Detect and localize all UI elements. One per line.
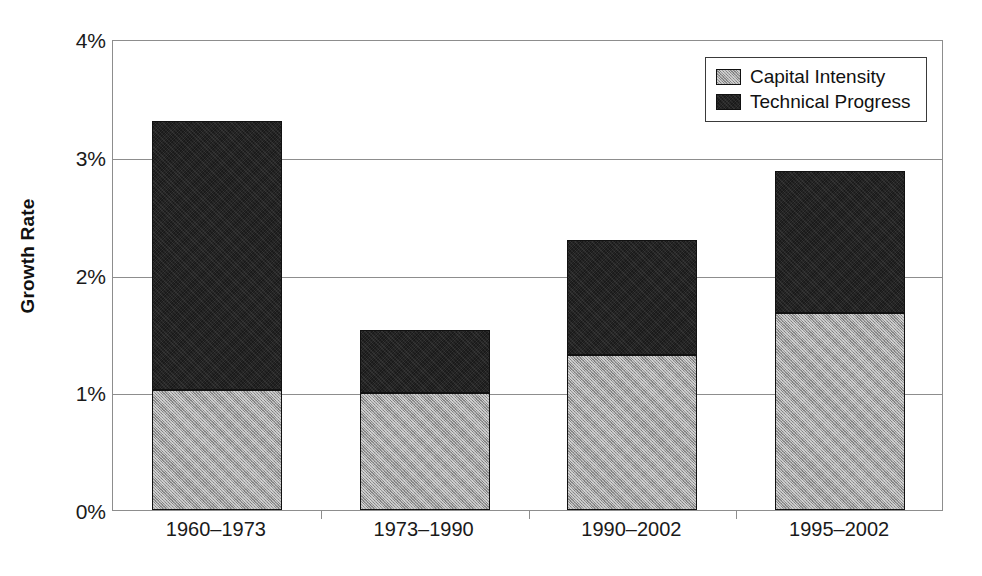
y-tick-label: 1% [50, 383, 106, 404]
bar-group[interactable] [360, 39, 490, 510]
chart-legend: Capital IntensityTechnical Progress [705, 57, 927, 122]
bar-segment-capital-intensity[interactable] [567, 355, 697, 510]
bar-group[interactable] [567, 39, 697, 510]
bar-segment-capital-intensity[interactable] [775, 313, 905, 510]
bar-segment-capital-intensity[interactable] [360, 393, 490, 510]
bar-group[interactable] [152, 39, 282, 510]
x-axis-tick-labels: 1960–19731973–19901990–20021995–2002 [112, 518, 943, 558]
bar-segment-technical-progress[interactable] [775, 171, 905, 313]
x-tick-label: 1973–1990 [374, 518, 474, 541]
y-tick-label: 0% [50, 501, 106, 522]
y-tick-label: 3% [50, 147, 106, 168]
y-axis-title: Growth Rate [17, 146, 39, 366]
x-tick-label: 1990–2002 [581, 518, 681, 541]
legend-swatch-icon [716, 94, 741, 110]
bar-segment-technical-progress[interactable] [567, 240, 697, 354]
legend-label: Technical Progress [750, 92, 911, 111]
y-axis-tick-labels: 4%3%2%1%0% [50, 0, 106, 576]
legend-item[interactable]: Capital Intensity [716, 64, 916, 89]
x-tick-label: 1960–1973 [166, 518, 266, 541]
y-tick-label: 4% [50, 30, 106, 51]
legend-swatch-icon [716, 69, 741, 85]
y-tick-label: 2% [50, 265, 106, 286]
stacked-bar-chart: Growth Rate 4%3%2%1%0% 1960–19731973–199… [0, 0, 982, 576]
x-tick-label: 1995–2002 [789, 518, 889, 541]
bar-segment-technical-progress[interactable] [152, 121, 282, 389]
legend-label: Capital Intensity [750, 67, 885, 86]
legend-item[interactable]: Technical Progress [716, 89, 916, 114]
bar-segment-capital-intensity[interactable] [152, 390, 282, 510]
bar-segment-technical-progress[interactable] [360, 330, 490, 394]
